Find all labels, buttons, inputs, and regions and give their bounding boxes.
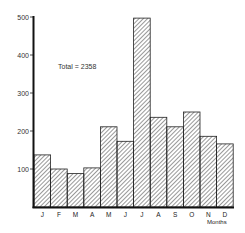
bar-f-1 (51, 169, 68, 207)
x-tick-label: N (206, 211, 211, 218)
total-annotation: Total = 2358 (58, 63, 96, 70)
bar-n-10 (200, 136, 217, 207)
bar-a-7 (150, 117, 167, 207)
bars (34, 18, 233, 207)
x-tick-label: J (124, 211, 127, 218)
x-tick-label: M (106, 211, 111, 218)
bar-j-6 (134, 18, 151, 207)
bar-o-9 (183, 112, 200, 207)
y-tick-label: 500 (17, 14, 29, 21)
x-tick-label: M (73, 211, 78, 218)
x-tick-label: J (41, 211, 44, 218)
x-tick-label: A (90, 211, 95, 218)
x-tick-label: A (156, 211, 161, 218)
bar-m-4 (100, 127, 117, 207)
y-axis-ticks: 100200300400500 (17, 14, 34, 173)
bar-m-2 (67, 174, 84, 207)
monthly-bar-chart: 100200300400500 JFMAMJJASOND Total = 235… (0, 0, 245, 233)
x-tick-label: S (173, 211, 178, 218)
bar-a-3 (84, 168, 101, 207)
y-tick-label: 300 (17, 90, 29, 97)
bar-s-8 (167, 127, 184, 207)
x-axis-title: Months (207, 219, 227, 225)
x-tick-label: D (223, 211, 228, 218)
bar-d-11 (217, 144, 234, 207)
bar-j-0 (34, 155, 51, 207)
y-tick-label: 200 (17, 128, 29, 135)
x-tick-label: O (189, 211, 194, 218)
y-tick-label: 400 (17, 52, 29, 59)
x-tick-label: J (140, 211, 143, 218)
bar-j-5 (117, 141, 134, 207)
y-tick-label: 100 (17, 166, 29, 173)
x-tick-label: F (57, 211, 61, 218)
x-axis-labels: JFMAMJJASOND (41, 211, 228, 218)
